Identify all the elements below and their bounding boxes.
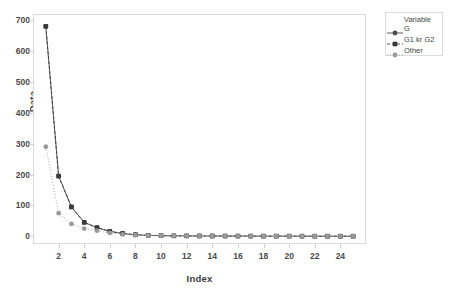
data-point-marker [82,220,87,225]
series-line [46,26,353,236]
y-tick-mark [29,205,33,206]
legend-entry[interactable]: Other [386,46,442,56]
x-tick-label: 14 [208,251,217,261]
x-tick-mark [264,244,265,248]
y-tick-mark [29,51,33,52]
x-axis-title: Index [33,273,366,284]
data-point-marker [351,234,356,239]
legend-title: Variable [404,15,431,24]
x-tick-mark [289,244,290,248]
x-tick-label: 8 [133,251,138,261]
y-tick-label: 300 [4,139,30,149]
x-tick-mark [238,244,239,248]
x-tick-label: 18 [259,251,268,261]
x-tick-mark [59,244,60,248]
legend-marker-icon [387,35,403,45]
data-point-marker [133,233,138,238]
y-tick-mark [29,113,33,114]
data-point-marker [312,234,317,239]
data-point-marker [171,233,176,238]
data-point-marker [184,234,189,239]
y-tick-mark [29,175,33,176]
x-axis-tick-labels: 24681012141618202224 [33,251,366,265]
y-axis-tick-labels: 0100200300400500600700 [0,14,30,244]
data-point-marker [325,234,330,239]
x-tick-label: 22 [310,251,319,261]
y-tick-label: 500 [4,77,30,87]
series-line [46,26,353,236]
chart-figure: Data 0100200300400500600700 246810121416… [0,0,453,296]
x-tick-label: 20 [284,251,293,261]
x-tick-mark [161,244,162,248]
data-point-marker [274,234,279,239]
y-tick-mark [29,144,33,145]
legend-entry-label: Other [404,46,423,56]
legend-entry[interactable]: G1 kr G2 [386,35,442,45]
x-tick-mark [315,244,316,248]
legend-entry-label: G1 kr G2 [404,35,434,45]
chart-legend: Variable GG1 kr G2Other [385,12,443,56]
data-point-marker [300,234,305,239]
data-point-marker [248,234,253,239]
x-tick-label: 12 [182,251,191,261]
x-tick-label: 24 [336,251,345,261]
x-tick-label: 2 [56,251,61,261]
data-point-marker [287,234,292,239]
y-tick-mark [29,20,33,21]
series-1 [43,24,355,239]
x-tick-mark [110,244,111,248]
data-point-marker [44,24,49,29]
y-tick-label: 400 [4,108,30,118]
x-tick-label: 10 [156,251,165,261]
data-point-marker [197,234,202,239]
x-tick-mark [135,244,136,248]
y-tick-label: 600 [4,46,30,56]
y-tick-mark [29,82,33,83]
legend-entry-label: G [404,24,410,34]
y-tick-label: 100 [4,200,30,210]
series-line [46,147,353,236]
legend-marker-icon [387,46,403,56]
legend-marker-icon [387,24,403,34]
data-point-marker [236,234,241,239]
data-point-marker [146,233,151,238]
series-2 [44,24,356,238]
x-tick-label: 6 [107,251,112,261]
data-point-marker [82,226,87,231]
data-point-marker [210,234,215,239]
legend-entry[interactable]: G [386,24,442,34]
x-tick-mark [340,244,341,248]
data-point-marker [159,233,164,238]
data-point-marker [56,211,61,216]
data-point-marker [393,53,398,58]
data-point-marker [43,144,48,149]
x-tick-label: 16 [233,251,242,261]
data-point-marker [107,230,112,235]
data-point-marker [69,222,74,227]
y-tick-label: 0 [4,231,30,241]
data-point-marker [56,174,61,179]
chart-plot-svg [33,14,366,244]
x-tick-label: 4 [82,251,87,261]
x-tick-mark [84,244,85,248]
data-point-marker [120,232,125,237]
data-point-marker [261,234,266,239]
y-tick-mark [29,236,33,237]
data-point-marker [223,234,228,239]
data-point-marker [69,205,74,210]
data-point-marker [338,234,343,239]
y-tick-label: 700 [4,15,30,25]
data-point-marker [95,228,100,233]
x-tick-mark [187,244,188,248]
x-tick-mark [212,244,213,248]
y-tick-label: 200 [4,170,30,180]
